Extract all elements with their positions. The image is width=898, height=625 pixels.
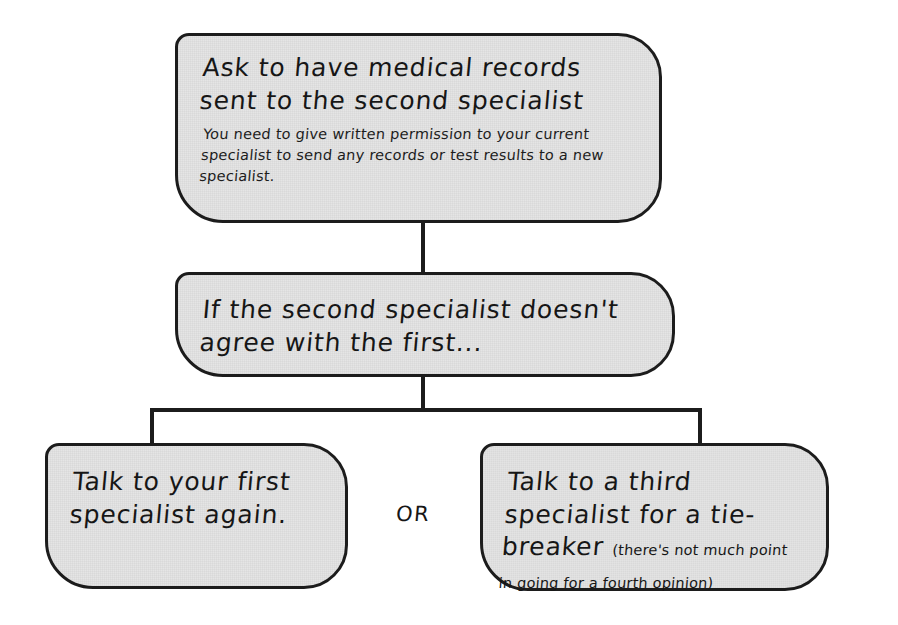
flow-node-disagree-content: If the second specialist doesn't agree w… <box>178 275 672 369</box>
flow-node-third-specialist-heading: Talk to a third specialist for a tie-bre… <box>498 466 812 596</box>
connector-records-to-disagree <box>421 221 425 274</box>
flow-node-first-again[interactable]: Talk to your first specialist again. <box>45 443 348 589</box>
flow-node-records-content: Ask to have medical records sent to the … <box>178 36 659 197</box>
flow-node-records[interactable]: Ask to have medical records sent to the … <box>175 33 662 223</box>
flow-node-records-heading: Ask to have medical records sent to the … <box>198 52 637 117</box>
flow-node-third-specialist[interactable]: Talk to a third specialist for a tie-bre… <box>480 443 829 591</box>
flow-node-disagree-heading: If the second specialist doesn't agree w… <box>198 294 650 359</box>
flow-node-records-body: You need to give written permission to y… <box>199 124 637 187</box>
connector-split-right-drop <box>698 408 702 444</box>
flow-node-first-again-heading: Talk to your first specialist again. <box>68 466 323 531</box>
branch-or-label: OR <box>395 502 431 526</box>
flow-node-first-again-content: Talk to your first specialist again. <box>48 446 345 541</box>
flow-node-disagree[interactable]: If the second specialist doesn't agree w… <box>175 272 675 377</box>
connector-split-bar <box>150 408 702 412</box>
connector-disagree-stem <box>421 374 425 412</box>
flowchart-canvas: Ask to have medical records sent to the … <box>0 0 898 625</box>
connector-split-left-drop <box>150 408 154 444</box>
flow-node-third-specialist-content: Talk to a third specialist for a tie-bre… <box>483 446 826 606</box>
